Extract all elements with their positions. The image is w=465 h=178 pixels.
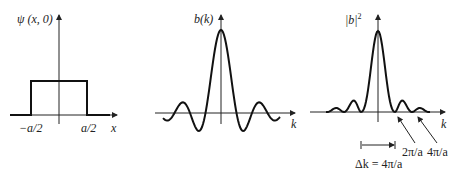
x-label: x bbox=[111, 122, 116, 134]
panel-amplitude bbox=[155, 15, 295, 131]
annot-4pi: 4π/a bbox=[427, 146, 448, 158]
arrow-2pi bbox=[398, 117, 415, 143]
k-label-2: k bbox=[441, 118, 446, 130]
delta-k-label: Δk = 4π/a bbox=[355, 158, 402, 170]
k-label: k bbox=[291, 118, 296, 130]
arrow-4pi bbox=[418, 117, 437, 143]
bk-label: b(k) bbox=[194, 13, 213, 25]
tick-neg-a2: −a/2 bbox=[19, 122, 42, 134]
psi-label: ψ (x, 0) bbox=[17, 13, 53, 25]
tick-a2: a/2 bbox=[81, 122, 96, 134]
rect-pulse bbox=[10, 81, 110, 115]
figure-canvas bbox=[0, 0, 465, 178]
panel-power bbox=[310, 15, 445, 149]
annot-2pi: 2π/a bbox=[402, 146, 423, 158]
panel-wavefunction bbox=[10, 15, 117, 124]
b2-label: |b|2 bbox=[345, 13, 362, 26]
